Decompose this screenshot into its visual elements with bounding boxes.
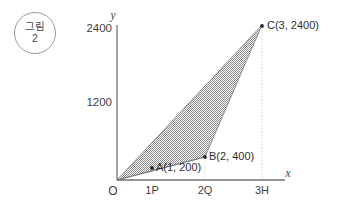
x-tick-3h: 3H bbox=[255, 184, 269, 196]
x-tick-2q: 2Q bbox=[198, 184, 213, 196]
point-a-marker bbox=[150, 166, 154, 170]
y-axis-label: y bbox=[109, 9, 116, 22]
coordinate-plot: 2400 1200 y x O 1P 2Q 3H A(1, 200) B(2, … bbox=[0, 0, 345, 203]
point-a-label: A(1, 200) bbox=[156, 161, 201, 173]
point-c-marker bbox=[260, 24, 264, 28]
x-tick-1p: 1P bbox=[145, 184, 158, 196]
y-tick-1200: 1200 bbox=[86, 96, 112, 108]
point-b-marker bbox=[203, 155, 207, 159]
point-b-label: B(2, 400) bbox=[209, 150, 254, 162]
figure-container: 그림 2 2400 1200 y bbox=[0, 0, 345, 203]
x-axis-label: x bbox=[284, 167, 291, 179]
origin-label: O bbox=[108, 184, 117, 198]
point-c-label: C(3, 2400) bbox=[267, 19, 319, 31]
y-tick-2400: 2400 bbox=[86, 22, 112, 34]
